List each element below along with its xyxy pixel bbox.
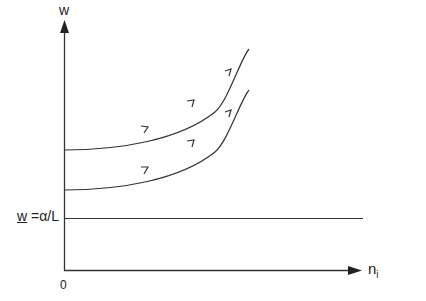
threshold-label-var: w — [17, 208, 27, 224]
x-axis-label: ni — [368, 260, 379, 280]
y-axis-arrow-icon — [60, 20, 69, 33]
lower-arrow-icon-3 — [225, 110, 231, 117]
lower-arrow-icon-2 — [187, 140, 194, 147]
upper-arrow-icon-1 — [141, 126, 148, 133]
origin-label: 0 — [60, 278, 67, 292]
upper-arrow-icon-3 — [225, 69, 231, 76]
upper-arrow-icon-2 — [187, 100, 194, 107]
x-axis-arrow-icon — [348, 266, 362, 275]
y-axis-label: w — [59, 2, 69, 18]
lower-arrow-icon-1 — [141, 167, 148, 174]
phase-diagram — [0, 0, 426, 301]
threshold-label: w =α/L — [17, 208, 59, 224]
threshold-label-expr: =α/L — [27, 208, 59, 224]
x-axis-label-sub: i — [376, 269, 378, 280]
upper-curve — [64, 49, 249, 150]
